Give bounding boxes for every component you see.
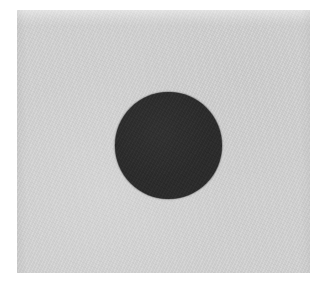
panel-top-sheen <box>17 10 310 26</box>
gray-background-panel <box>17 10 310 273</box>
figure-root <box>0 0 328 291</box>
circle-texture-overlay <box>115 92 222 199</box>
dark-circle-shape <box>115 92 222 199</box>
